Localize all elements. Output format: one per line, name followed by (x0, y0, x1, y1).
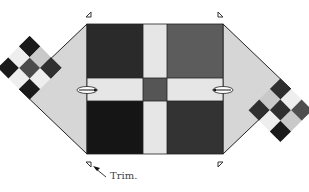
quadrant-top-right (167, 24, 223, 78)
trim-arrow-icon (93, 166, 106, 177)
trim-label: Trim. (110, 170, 137, 181)
right-pin-icon (212, 87, 233, 94)
quadrant-top-left (87, 24, 143, 78)
sashing-vertical-bottom (143, 101, 167, 154)
trim-mark-top-left-icon (86, 12, 91, 17)
sashing-vertical-top (143, 24, 167, 78)
quadrant-bottom-right (167, 101, 223, 154)
quilt-diagram (0, 0, 309, 192)
trim-mark-bottom-right-icon (218, 162, 223, 167)
trim-mark-bottom-left-icon (86, 162, 91, 167)
center-square (143, 78, 167, 101)
quadrant-bottom-left (87, 101, 143, 154)
left-pin-icon (77, 87, 98, 94)
trim-mark-top-right-icon (218, 12, 223, 17)
